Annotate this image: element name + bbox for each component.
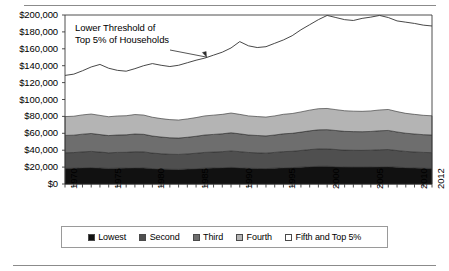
- x-axis-tick-label: 2010: [419, 168, 429, 189]
- legend-swatch: [139, 234, 146, 241]
- x-axis-tick-label: 1980: [156, 168, 166, 189]
- x-axis-tick-label: 2012: [436, 168, 446, 189]
- legend-label: Third: [203, 233, 223, 242]
- legend-label: Lowest: [98, 233, 126, 242]
- threshold-annotation: Lower Threshold of Top 5% of Households: [75, 22, 169, 46]
- legend-label: Fourth: [247, 233, 272, 242]
- figure: $200,000$180,000$160,000$140,000$120,000…: [0, 0, 449, 271]
- legend-item: Third: [193, 233, 224, 242]
- legend-item: Fourth: [236, 233, 272, 242]
- chart-legend: LowestSecondThirdFourthFifth and Top 5%: [61, 226, 388, 248]
- annotation-line-1: Lower Threshold of: [75, 22, 169, 34]
- top-horizontal-rule: [24, 5, 436, 6]
- bottom-horizontal-rule: [13, 265, 436, 266]
- legend-item: Second: [139, 233, 179, 242]
- x-axis-tick-label: 1975: [113, 168, 123, 189]
- x-axis-tick-label: 1995: [287, 168, 297, 189]
- legend-swatch: [285, 234, 292, 241]
- legend-label: Second: [150, 233, 180, 242]
- legend-label: Fifth and Top 5%: [296, 233, 362, 242]
- legend-item: Lowest: [88, 233, 126, 242]
- legend-item: Fifth and Top 5%: [285, 233, 361, 242]
- annotation-line-2: Top 5% of Households: [75, 34, 169, 46]
- x-axis-tick-label: 1985: [200, 168, 210, 189]
- legend-swatch: [88, 234, 95, 241]
- x-axis-tick-label: 1970: [69, 168, 79, 189]
- x-axis-tick-label: 1990: [244, 168, 254, 189]
- x-axis-tick-label: 2005: [375, 168, 385, 189]
- x-axis-labels: 1970197519801985199019952000200520102012: [0, 185, 449, 231]
- legend-swatch: [193, 234, 200, 241]
- legend-swatch: [236, 234, 243, 241]
- x-axis-tick-label: 2000: [331, 168, 341, 189]
